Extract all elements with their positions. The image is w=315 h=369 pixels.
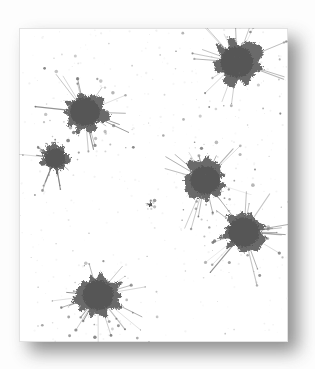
artwork-canvas xyxy=(0,0,315,369)
blot-top-right-core xyxy=(221,47,254,78)
blot-upper-left-core xyxy=(70,98,100,126)
blot-micro-upper-core xyxy=(149,204,152,207)
blot-right-lower-core xyxy=(229,217,260,246)
blot-bottom-core xyxy=(83,280,114,309)
ink-blot-artwork xyxy=(0,0,315,369)
blot-left-small-core xyxy=(45,148,66,168)
blot-center-core xyxy=(190,166,220,194)
